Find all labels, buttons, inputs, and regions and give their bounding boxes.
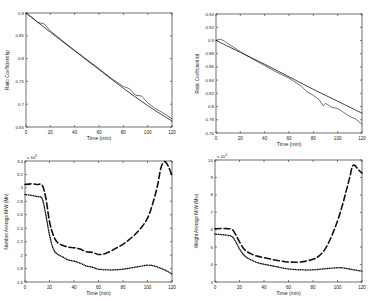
x-tick-label: 20 [47, 285, 53, 290]
x-axis-label: Time (min) [87, 135, 112, 141]
y-axis-label: Number Average M/W (Mn) [4, 193, 9, 249]
y-tick-label: 0.82 [205, 91, 214, 96]
x-tick-label: 80 [310, 285, 316, 290]
x-tick-label: 120 [168, 130, 176, 135]
x-axis-label: Time (min) [276, 290, 301, 296]
y-tick-label: 0.86 [205, 64, 214, 69]
y-tick-label: 0.75 [15, 79, 24, 84]
x-tick-label: 120 [358, 285, 366, 290]
y-tick-label: 0.92 [205, 25, 214, 30]
y-tick-label: 2 [21, 253, 24, 258]
x-tick-label: 80 [311, 136, 317, 141]
y-tick-label: 3 [21, 185, 24, 190]
x-tick-label: 0 [215, 136, 218, 141]
x-tick-label: 20 [48, 130, 54, 135]
y-axis-label: Ratio Coefficient kp [5, 50, 10, 90]
x-tick-label: 100 [144, 130, 152, 135]
plot-area-frame [216, 14, 362, 133]
y-tick-label: 0.7 [18, 102, 25, 107]
y-tick-label: 5 [211, 245, 214, 250]
y-tick-label: 2.8 [17, 199, 24, 204]
y-tick-label: 3 [211, 280, 214, 285]
chart-bottom-right: 020406080100120345678910Time (min)Weight… [194, 153, 366, 296]
chart-top-left: 0204060801001200.650.70.750.80.850.9Time… [5, 11, 176, 141]
y-tick-label: 1.8 [17, 266, 24, 271]
y-tick-label: 3.2 [17, 172, 24, 177]
x-axis-label: Time (min) [86, 290, 111, 296]
x-tick-label: 100 [334, 285, 342, 290]
y-tick-label: 1.6 [17, 280, 24, 285]
x-tick-label: 0 [24, 285, 27, 290]
x-tick-label: 40 [71, 285, 77, 290]
chart-top-right: 0204060801001200.760.780.80.820.840.860.… [195, 12, 366, 147]
y-tick-label: 0.9 [18, 11, 25, 16]
y-tick-label: 0.8 [208, 104, 215, 109]
y-tick-label: 0.85 [15, 33, 24, 38]
axis-exponent-label: x 105 [217, 153, 227, 159]
y-tick-label: 10 [208, 158, 213, 163]
y-tick-label: 2.4 [17, 226, 24, 231]
series-line-upper-dashed [25, 162, 172, 255]
y-tick-label: 2.6 [17, 212, 24, 217]
series-line-upper-dashed [215, 165, 362, 262]
y-axis-label: Ratio Coefficient kd [195, 53, 200, 93]
y-tick-label: 9 [211, 175, 214, 180]
x-tick-label: 120 [358, 136, 366, 141]
figure-canvas: 0204060801001200.650.70.750.80.850.9Time… [0, 0, 377, 301]
y-tick-label: 7 [211, 210, 214, 215]
x-tick-label: 80 [121, 130, 127, 135]
y-axis-label: Weight Average M/W (Mw) [194, 193, 199, 248]
x-tick-label: 40 [261, 285, 267, 290]
series-line-lower-dotted [215, 234, 362, 271]
x-tick-label: 0 [25, 130, 28, 135]
series-line-measured [216, 39, 362, 124]
y-tick-label: 0.8 [18, 56, 25, 61]
x-tick-label: 100 [334, 136, 342, 141]
y-tick-label: 0.9 [208, 38, 215, 43]
x-tick-label: 100 [144, 285, 152, 290]
x-tick-label: 40 [72, 130, 78, 135]
y-tick-label: 2.2 [17, 239, 24, 244]
y-tick-label: 0.84 [205, 78, 214, 83]
x-tick-label: 40 [262, 136, 268, 141]
y-tick-label: 0.76 [205, 131, 214, 136]
y-tick-label: 0.88 [205, 51, 214, 56]
plot-area-frame [215, 160, 362, 282]
x-tick-label: 20 [238, 136, 244, 141]
x-tick-label: 120 [168, 285, 176, 290]
x-axis-label: Time (min) [277, 141, 302, 147]
plot-area-frame [25, 161, 172, 282]
y-tick-label: 3.4 [17, 159, 24, 164]
x-tick-label: 80 [120, 285, 126, 290]
y-tick-label: 0.94 [205, 12, 214, 17]
y-tick-label: 4 [211, 262, 214, 267]
y-tick-label: 6 [211, 227, 214, 232]
y-tick-label: 0.65 [15, 125, 24, 130]
x-tick-label: 0 [214, 285, 217, 290]
series-line-model [216, 40, 362, 113]
y-tick-label: 8 [211, 192, 214, 197]
series-line-measured [26, 13, 172, 119]
axis-exponent-label: x 105 [27, 154, 37, 160]
y-tick-label: 0.78 [205, 117, 214, 122]
chart-bottom-left: 0204060801001201.61.822.22.42.62.833.23.… [4, 154, 176, 296]
x-tick-label: 20 [237, 285, 243, 290]
